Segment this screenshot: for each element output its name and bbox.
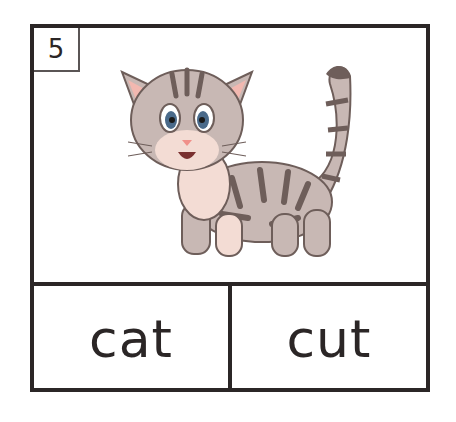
picture-panel: 5 [34, 28, 426, 286]
cat-illustration-icon [112, 54, 352, 266]
option-cut[interactable]: cut [228, 286, 426, 388]
clip-card: 5 [30, 24, 430, 392]
option-cat[interactable]: cat [34, 286, 228, 388]
answer-options: cat cut [34, 286, 426, 388]
card-number: 5 [34, 28, 80, 72]
